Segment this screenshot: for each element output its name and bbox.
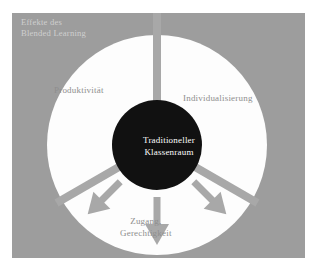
- sector-label-zugang-line-1: Zugang,: [120, 216, 172, 228]
- center-node-label-line-2: Klassenraum: [115, 146, 223, 158]
- figure-screenshot: Effekte des Blended Learning Produktivit…: [0, 0, 318, 272]
- center-node-label: Traditioneller Klassenraum: [115, 134, 223, 158]
- sector-label-produktivitaet: Produktivität: [54, 85, 104, 97]
- figure-caption: Effekte des Blended Learning: [21, 17, 86, 39]
- sector-label-zugang: Zugang, Gerechtigkeit: [120, 216, 172, 239]
- sector-label-individualisierung: Individualisierung: [183, 93, 253, 105]
- caption-line-1: Effekte des: [21, 17, 86, 28]
- diagram-panel: Effekte des Blended Learning Produktivit…: [12, 13, 305, 258]
- sector-label-zugang-line-2: Gerechtigkeit: [120, 228, 172, 240]
- caption-line-2: Blended Learning: [21, 28, 86, 39]
- center-node-label-line-1: Traditioneller: [115, 134, 223, 146]
